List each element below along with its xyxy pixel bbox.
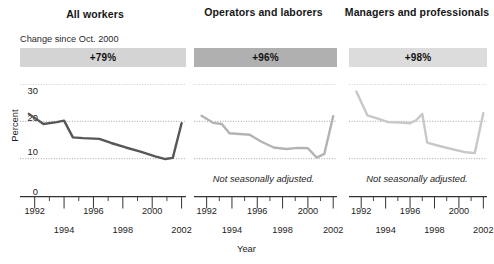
x-tick-label: 2000: [142, 206, 162, 216]
panel-title: All workers: [0, 8, 190, 21]
x-tick-label: 1992: [196, 206, 216, 216]
not-seasonally-adjusted-note: Not seasonally adjusted.: [341, 174, 493, 184]
panel-subnote: Change since Oct. 2000: [20, 34, 119, 44]
x-tick-label: 1998: [272, 225, 292, 235]
plot-area: [20, 84, 186, 196]
x-tick-label: 1996: [400, 206, 420, 216]
x-tick-label: 1996: [247, 206, 267, 216]
panel-title: Managers and professionals: [341, 6, 493, 19]
change-value: +96%: [252, 52, 279, 63]
change-banner: +96%: [194, 48, 337, 67]
x-tick-label: 2000: [298, 206, 318, 216]
x-tick-label: 1992: [24, 206, 44, 216]
x-tick-label: 1994: [222, 225, 242, 235]
change-value: +98%: [405, 52, 432, 63]
x-tick-labels: 199219962000199419982002: [349, 206, 487, 246]
y-axis-label: Percent: [9, 98, 20, 154]
plot-svg: [20, 84, 186, 196]
x-tick-label: 1994: [375, 225, 395, 235]
panel-operators-and-laborers: Operators and laborers +96% Not seasonal…: [186, 0, 341, 264]
x-tick-label: 1994: [54, 225, 74, 235]
x-tick-label: 2000: [449, 206, 469, 216]
x-tick-label: 2002: [473, 225, 493, 235]
data-line-all-workers: [29, 114, 182, 159]
panel-all-workers: All workers Change since Oct. 2000 +79% …: [0, 0, 190, 264]
data-line-operators-and-laborers: [202, 116, 334, 158]
x-axis-label: Year: [0, 243, 493, 254]
panel-title: Operators and laborers: [186, 6, 341, 19]
x-tick-label: 1996: [83, 206, 103, 216]
x-tick-labels: 199219962000199419982002: [194, 206, 337, 246]
x-tick-labels: 199219962000199419982002: [20, 206, 186, 246]
change-banner: +98%: [349, 48, 487, 67]
x-tick-label: 1992: [351, 206, 371, 216]
change-value: +79%: [90, 52, 117, 63]
change-banner: +79%: [20, 48, 186, 67]
x-tick-label: 1998: [424, 225, 444, 235]
panel-managers-and-professionals: Managers and professionals +98% Not seas…: [341, 0, 493, 264]
data-line-managers-and-professionals: [356, 91, 483, 153]
not-seasonally-adjusted-note: Not seasonally adjusted.: [186, 174, 341, 184]
x-tick-label: 1998: [113, 225, 133, 235]
